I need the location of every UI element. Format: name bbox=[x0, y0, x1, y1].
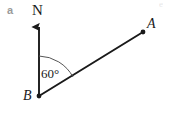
angle-measure-label: 60° bbox=[41, 67, 59, 80]
ray-ba bbox=[39, 32, 143, 96]
part-label-a: a bbox=[7, 5, 13, 16]
diagram-canvas bbox=[0, 0, 170, 132]
bearing-diagram: a N A B 60° e bbox=[0, 0, 170, 132]
point-a-label: A bbox=[147, 17, 156, 31]
corner-artifact-text: e bbox=[159, 1, 168, 7]
point-a-marker bbox=[141, 30, 146, 35]
north-label: N bbox=[32, 3, 43, 18]
point-b-label: B bbox=[23, 89, 32, 103]
point-b-marker bbox=[37, 94, 42, 99]
